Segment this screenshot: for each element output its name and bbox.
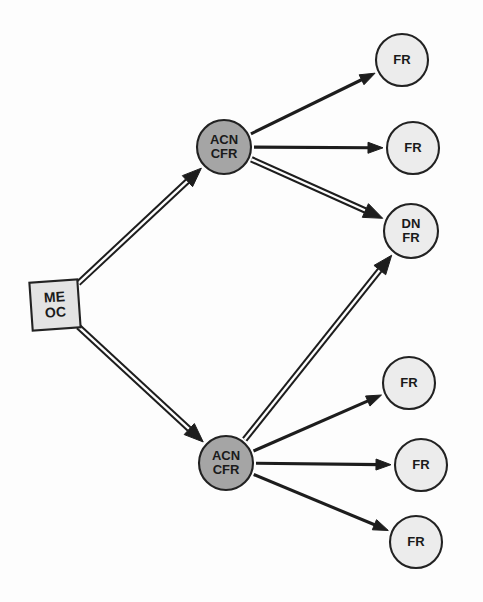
edge-single-arrow [254,475,389,531]
arrowhead [376,459,391,470]
node-label-line1: ACN [210,132,238,147]
diagram-canvas: MEOCACNCFRACNCFRFRFRDNFRFRFRFR [0,0,483,602]
edge-double-arrow [78,327,203,442]
edge-single-arrow [254,142,383,153]
edge-line [254,147,372,148]
edge-double-arrow [251,159,382,218]
node-label-line1: ACN [212,448,240,463]
node-label-line1: DN [402,216,421,231]
node-label-line2: FR [402,230,420,245]
nodes-layer: MEOCACNCFRACNCFRFRFRDNFRFRFRFR [29,34,447,568]
node-label-line2: CFR [211,146,238,161]
edge-single-arrow [251,73,375,134]
edge-double-arrow [245,255,392,439]
edge-line [251,78,365,134]
node-fr-1[interactable]: FR [376,34,428,86]
node-fr-4[interactable]: FR [395,439,447,491]
node-fr-5[interactable]: FR [390,516,442,568]
edge-single-arrow [256,459,391,470]
node-fr-3[interactable]: FR [383,357,435,409]
node-acn-top[interactable]: ACNCFR [197,120,251,174]
arrowhead [368,142,383,153]
node-acn-bottom[interactable]: ACNCFR [199,436,253,490]
node-label: FR [404,140,422,155]
node-label: FR [407,534,425,549]
edge-line-inner [78,327,189,429]
edge-line [254,475,378,527]
edge-double-arrow [78,168,201,283]
node-label: FR [393,52,411,67]
node-label-line2: CFR [213,462,240,477]
node-label: FR [400,375,418,390]
node-root[interactable]: MEOC [29,279,80,330]
edge-line-inner [245,270,380,439]
node-label: FR [412,457,430,472]
arrowhead [359,73,375,85]
edge-line [256,463,380,464]
node-label-line2: OC [44,303,66,320]
node-dn-fr[interactable]: DNFR [384,204,438,258]
arrowhead [362,204,382,219]
arrowhead [372,520,388,531]
edge-line-inner [251,159,365,210]
tree-diagram: MEOCACNCFRACNCFRFRFRDNFRFRFRFR [0,0,483,602]
node-fr-2[interactable]: FR [387,122,439,174]
arrowhead [366,395,382,406]
edge-line-inner [78,181,187,283]
